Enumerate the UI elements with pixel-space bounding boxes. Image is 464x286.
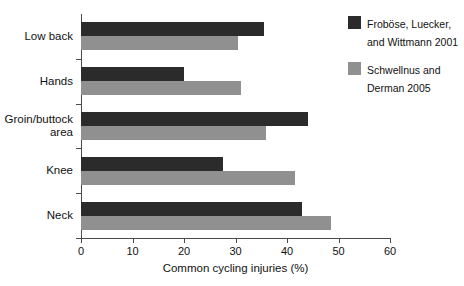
bar <box>81 112 308 126</box>
category-label: Groin/buttock area <box>0 113 73 139</box>
bar <box>81 202 302 216</box>
y-axis-tick <box>76 59 81 60</box>
x-axis-tick <box>287 238 288 243</box>
bar-group: Neck <box>81 202 390 230</box>
x-axis-tick <box>236 238 237 243</box>
bar <box>81 126 266 140</box>
x-axis-tick-label: 30 <box>216 245 256 258</box>
legend-entry: Schwellnus and Derman 2005 <box>348 60 464 96</box>
x-axis-tick <box>339 238 340 243</box>
x-axis-tick <box>390 238 391 243</box>
bar <box>81 67 184 81</box>
y-axis-tick <box>76 148 81 149</box>
bar-group: Knee <box>81 157 390 185</box>
x-axis-tick-label: 20 <box>164 245 204 258</box>
bar-group: Groin/buttock area <box>81 112 390 140</box>
x-axis-tick <box>81 238 82 243</box>
x-axis-tick-label: 10 <box>113 245 153 258</box>
legend-swatch <box>348 16 361 29</box>
legend-label: Schwellnus and Derman 2005 <box>367 64 441 94</box>
category-label: Neck <box>0 209 73 222</box>
x-axis-tick-label: 40 <box>267 245 307 258</box>
legend-label: Froböse, Luecker, and Wittmann 2001 <box>367 18 458 48</box>
bar <box>81 36 238 50</box>
bar-chart: Low backHandsGroin/buttock areaKneeNeck … <box>0 0 464 286</box>
x-axis-tick-label: 0 <box>61 245 101 258</box>
bar <box>81 22 264 36</box>
x-axis-tick-label: 50 <box>319 245 359 258</box>
bar <box>81 171 295 185</box>
y-axis-tick <box>76 193 81 194</box>
x-axis-tick-label: 60 <box>370 245 410 258</box>
bar <box>81 157 223 171</box>
bar-group: Hands <box>81 67 390 95</box>
bar-group: Low back <box>81 22 390 50</box>
category-label: Hands <box>0 75 73 88</box>
x-axis-title: Common cycling injuries (%) <box>81 262 390 274</box>
legend-entry: Froböse, Luecker, and Wittmann 2001 <box>348 14 464 50</box>
plot-area: Low backHandsGroin/buttock areaKneeNeck <box>81 14 390 238</box>
bar <box>81 216 331 230</box>
category-label: Knee <box>0 164 73 177</box>
chart-legend: Froböse, Luecker, and Wittmann 2001Schwe… <box>348 14 464 106</box>
x-axis-tick <box>184 238 185 243</box>
x-axis-tick <box>133 238 134 243</box>
legend-swatch <box>348 62 361 75</box>
bar <box>81 81 241 95</box>
category-label: Low back <box>0 30 73 43</box>
y-axis-tick <box>76 104 81 105</box>
